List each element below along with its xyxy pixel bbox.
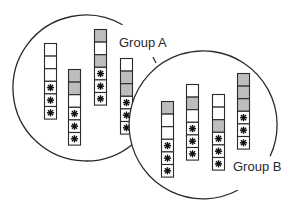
- asterisk-icon: [47, 84, 54, 91]
- asterisk-icon: [240, 139, 247, 146]
- white-cell: [187, 85, 199, 98]
- asterisk-icon: [164, 142, 171, 149]
- asterisk-icon: [189, 150, 196, 157]
- column-b3: [213, 95, 225, 171]
- gray-cell: [238, 99, 250, 112]
- asterisk-icon: [71, 135, 78, 142]
- gray-cell: [213, 120, 225, 133]
- asterisk-icon: [71, 110, 78, 117]
- asterisk-icon: [123, 99, 130, 106]
- asterisk-icon: [97, 95, 104, 102]
- asterisk-icon: [240, 127, 247, 134]
- star-cell: [213, 145, 225, 158]
- star-cell: [69, 107, 81, 120]
- white-cell: [213, 107, 225, 120]
- group-a-label: Group A: [119, 36, 167, 49]
- asterisk-icon: [164, 155, 171, 162]
- column-a3: [95, 30, 107, 106]
- column-b2: [187, 85, 199, 161]
- star-cell: [95, 93, 107, 106]
- asterisk-icon: [215, 148, 222, 155]
- white-cell: [213, 95, 225, 108]
- asterisk-icon: [97, 83, 104, 90]
- star-cell: [95, 80, 107, 93]
- white-cell: [162, 127, 174, 140]
- star-cell: [238, 137, 250, 150]
- group-diagram: [0, 0, 293, 220]
- star-cell: [45, 107, 57, 120]
- asterisk-icon: [215, 135, 222, 142]
- white-cell: [95, 42, 107, 55]
- gray-cell: [121, 84, 133, 97]
- star-cell: [187, 148, 199, 161]
- asterisk-icon: [189, 125, 196, 132]
- group-b-label: Group B: [233, 160, 281, 173]
- star-cell: [213, 132, 225, 145]
- asterisk-icon: [71, 123, 78, 130]
- star-cell: [162, 139, 174, 152]
- column-b4: [238, 74, 250, 150]
- white-cell: [69, 95, 81, 108]
- asterisk-icon: [47, 97, 54, 104]
- gray-cell: [162, 102, 174, 115]
- gray-cell: [238, 74, 250, 87]
- asterisk-icon: [97, 70, 104, 77]
- column-a2: [69, 70, 81, 146]
- star-cell: [162, 152, 174, 165]
- asterisk-icon: [164, 167, 171, 174]
- white-cell: [45, 56, 57, 69]
- star-cell: [45, 94, 57, 107]
- star-cell: [187, 122, 199, 135]
- gray-cell: [69, 70, 81, 83]
- asterisk-icon: [189, 138, 196, 145]
- gray-cell: [238, 86, 250, 99]
- asterisk-icon: [240, 114, 247, 121]
- star-cell: [187, 135, 199, 148]
- gray-cell: [69, 82, 81, 95]
- gray-cell: [187, 97, 199, 110]
- gray-cell: [95, 30, 107, 43]
- gray-cell: [121, 71, 133, 84]
- group-b-circle: [129, 51, 277, 199]
- column-b1: [162, 102, 174, 178]
- star-cell: [238, 124, 250, 137]
- star-cell: [213, 158, 225, 171]
- star-cell: [238, 111, 250, 124]
- column-a1: [45, 44, 57, 120]
- white-cell: [45, 69, 57, 82]
- star-cell: [45, 81, 57, 94]
- diagram-canvas: Group A Group B: [0, 0, 293, 220]
- white-cell: [45, 44, 57, 57]
- star-cell: [69, 120, 81, 133]
- star-cell: [69, 133, 81, 146]
- white-cell: [187, 110, 199, 123]
- asterisk-icon: [47, 109, 54, 116]
- asterisk-icon: [215, 160, 222, 167]
- gray-cell: [95, 55, 107, 68]
- white-cell: [121, 59, 133, 72]
- star-cell: [162, 165, 174, 178]
- star-cell: [95, 67, 107, 80]
- white-cell: [162, 114, 174, 127]
